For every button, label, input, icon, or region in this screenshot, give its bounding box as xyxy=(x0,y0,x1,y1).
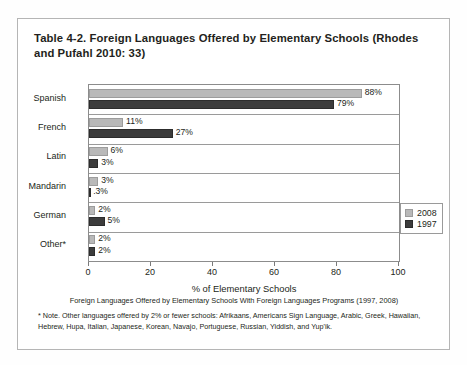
category-label-spanish: Spanish xyxy=(0,93,66,103)
plot-frame: 88%79%11%27%6%3%3%.3%2%5%2%2% xyxy=(88,84,400,262)
bar-1997-mandarin xyxy=(89,188,91,197)
x-tick xyxy=(88,262,89,266)
x-axis-ticks: 020406080100 xyxy=(88,262,400,282)
legend-item: 1997 xyxy=(405,219,437,229)
bar-group: 2%2% xyxy=(89,232,399,261)
x-tick-label: 0 xyxy=(85,267,90,277)
category-label-mandarin: Mandarin xyxy=(0,181,66,191)
figure-page: Table 4-2. Foreign Languages Offered by … xyxy=(0,0,467,365)
x-tick xyxy=(274,262,275,266)
bar-2008-latin xyxy=(89,147,108,156)
chart-area: Language Offered 88%79%11%27%6%3%3%.3%2%… xyxy=(17,84,437,274)
legend-swatch-2008-icon xyxy=(405,209,413,217)
bar-value-label: 11% xyxy=(126,116,143,126)
category-label-latin: Latin xyxy=(0,151,66,161)
bar-value-label: 79% xyxy=(337,98,354,108)
bar-1997-french xyxy=(89,129,173,138)
bar-1997-latin xyxy=(89,159,98,168)
bar-value-label: 3% xyxy=(101,175,113,185)
legend-swatch-1997-icon xyxy=(405,220,413,228)
bar-value-label: 3% xyxy=(101,157,113,167)
bar-2008-other xyxy=(89,235,95,244)
x-tick xyxy=(336,262,337,266)
bar-group: 2%5% xyxy=(89,202,399,231)
figure-note: * Note. Other languages offered by 2% or… xyxy=(38,311,430,332)
bar-group: 3%.3% xyxy=(89,173,399,202)
bar-group: 88%79% xyxy=(89,85,399,114)
bar-group: 11%27% xyxy=(89,114,399,143)
legend-item: 2008 xyxy=(405,208,437,218)
bar-2008-spanish xyxy=(89,89,362,98)
chart-legend: 2008 1997 xyxy=(400,203,443,234)
x-tick-label: 100 xyxy=(390,267,405,277)
x-tick xyxy=(398,262,399,266)
legend-label: 1997 xyxy=(417,219,437,229)
bar-value-label: 2% xyxy=(98,233,110,243)
bar-value-label: .3% xyxy=(93,186,108,196)
bar-value-label: 2% xyxy=(98,204,110,214)
bar-1997-german xyxy=(89,217,105,226)
x-tick-label: 80 xyxy=(331,267,341,277)
bar-value-label: 5% xyxy=(108,215,120,225)
bar-value-label: 88% xyxy=(365,87,382,97)
x-tick-label: 40 xyxy=(207,267,217,277)
bar-2008-german xyxy=(89,206,95,215)
bar-value-label: 27% xyxy=(176,127,193,137)
x-tick xyxy=(212,262,213,266)
bar-1997-other xyxy=(89,247,95,256)
bar-group: 6%3% xyxy=(89,144,399,173)
x-axis-label: % of Elementary Schools xyxy=(88,283,400,294)
bar-value-label: 6% xyxy=(111,145,123,155)
figure-caption: Foreign Languages Offered by Elementary … xyxy=(34,296,434,305)
bar-2008-mandarin xyxy=(89,177,98,186)
x-tick-label: 20 xyxy=(145,267,155,277)
x-tick-label: 60 xyxy=(269,267,279,277)
bar-2008-french xyxy=(89,118,123,127)
legend-label: 2008 xyxy=(417,208,437,218)
category-label-other: Other* xyxy=(0,239,66,249)
category-label-german: German xyxy=(0,210,66,220)
category-label-french: French xyxy=(0,122,66,132)
bar-value-label: 2% xyxy=(98,245,110,255)
bar-1997-spanish xyxy=(89,100,334,109)
figure-title: Table 4-2. Foreign Languages Offered by … xyxy=(34,31,424,61)
x-tick xyxy=(150,262,151,266)
